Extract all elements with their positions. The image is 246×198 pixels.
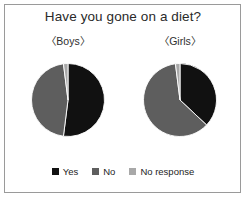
chart-legend: YesNoNo response bbox=[0, 166, 246, 177]
panel-label-girls: 〈Girls〉 bbox=[130, 33, 230, 48]
pie-chart-figure: Have you gone on a diet? 〈Boys〉 〈Girls〉 … bbox=[0, 0, 246, 198]
pie-slice-no bbox=[32, 64, 68, 136]
pie-slice-yes bbox=[63, 64, 104, 137]
pie-chart-girls bbox=[142, 62, 218, 138]
legend-label: No response bbox=[140, 166, 194, 177]
square-swatch-icon bbox=[52, 168, 59, 175]
legend-item: No bbox=[92, 166, 115, 177]
pie-svg bbox=[142, 62, 218, 138]
legend-label: Yes bbox=[63, 166, 79, 177]
panel-label-boys: 〈Boys〉 bbox=[18, 33, 118, 48]
legend-item: No response bbox=[129, 166, 194, 177]
square-swatch-icon bbox=[129, 168, 136, 175]
pie-svg bbox=[30, 62, 106, 138]
chart-title: Have you gone on a diet? bbox=[0, 9, 246, 24]
square-swatch-icon bbox=[92, 168, 99, 175]
legend-item: Yes bbox=[52, 166, 79, 177]
legend-label: No bbox=[103, 166, 115, 177]
pie-chart-boys bbox=[30, 62, 106, 138]
